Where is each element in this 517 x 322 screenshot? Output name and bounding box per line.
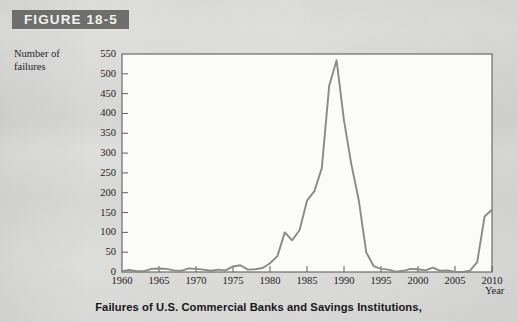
y-tick-550: 550 — [86, 48, 116, 59]
y-tick-200: 200 — [86, 187, 116, 198]
y-tick-150: 150 — [86, 207, 116, 218]
x-tick-1980: 1980 — [250, 275, 290, 286]
x-tick-1970: 1970 — [176, 275, 216, 286]
y-tick-400: 400 — [86, 107, 116, 118]
y-axis-title-line2: failures — [14, 61, 86, 74]
y-axis-title: Number of failures — [14, 48, 86, 73]
y-tick-350: 350 — [86, 127, 116, 138]
y-axis-title-line1: Number of — [14, 48, 60, 59]
x-tick-2005: 2005 — [435, 275, 475, 286]
x-tick-2010: 2010 — [472, 275, 512, 286]
x-axis-title: Year — [485, 285, 504, 298]
x-tick-1960: 1960 — [102, 275, 142, 286]
chart-container: Number of failures Year 0501001502002503… — [0, 0, 517, 322]
y-tick-450: 450 — [86, 88, 116, 99]
figure-caption: Failures of U.S. Commercial Banks and Sa… — [0, 301, 517, 313]
y-tick-100: 100 — [86, 226, 116, 237]
y-tick-50: 50 — [86, 246, 116, 257]
x-tick-1990: 1990 — [324, 275, 364, 286]
y-tick-500: 500 — [86, 68, 116, 79]
y-tick-300: 300 — [86, 147, 116, 158]
x-tick-1965: 1965 — [139, 275, 179, 286]
plot-panel — [122, 54, 492, 272]
x-tick-2000: 2000 — [398, 275, 438, 286]
x-tick-1975: 1975 — [213, 275, 253, 286]
x-tick-1995: 1995 — [361, 275, 401, 286]
x-tick-1985: 1985 — [287, 275, 327, 286]
y-tick-250: 250 — [86, 167, 116, 178]
